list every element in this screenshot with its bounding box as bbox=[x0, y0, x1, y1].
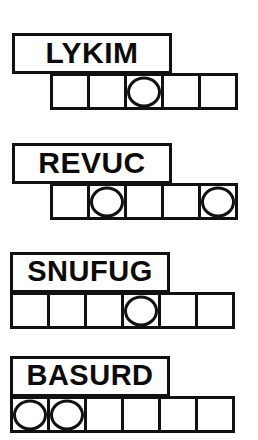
answer-tile[interactable] bbox=[161, 183, 201, 220]
answer-tile-row bbox=[50, 73, 238, 110]
answer-tile[interactable] bbox=[10, 292, 50, 329]
answer-tile-row bbox=[10, 292, 235, 329]
scrambled-word-box: SNUFUG bbox=[10, 252, 170, 293]
answer-tile[interactable] bbox=[84, 396, 124, 433]
answer-tile[interactable] bbox=[47, 292, 87, 329]
answer-tile[interactable] bbox=[50, 183, 90, 220]
answer-tile[interactable] bbox=[50, 73, 90, 110]
scrambled-word-text: LYKIM bbox=[45, 38, 138, 68]
scrambled-word-box: REVUC bbox=[12, 143, 172, 184]
answer-tile[interactable] bbox=[158, 292, 198, 329]
scrambled-word-text: SNUFUG bbox=[27, 257, 152, 286]
worksheet-canvas: LYKIMREVUCSNUFUGBASURD bbox=[0, 0, 258, 440]
answer-tile[interactable] bbox=[195, 396, 235, 433]
answer-tile-circled[interactable] bbox=[47, 396, 87, 433]
answer-tile[interactable] bbox=[198, 73, 238, 110]
answer-tile[interactable] bbox=[124, 183, 164, 220]
scrambled-word-box: LYKIM bbox=[12, 33, 172, 74]
answer-tile[interactable] bbox=[158, 396, 198, 433]
answer-tile-circled[interactable] bbox=[124, 73, 164, 110]
answer-tile-circled[interactable] bbox=[10, 396, 50, 433]
answer-tile[interactable] bbox=[161, 73, 201, 110]
scrambled-word-box: BASURD bbox=[10, 356, 170, 397]
scrambled-word-text: BASURD bbox=[26, 361, 153, 390]
scrambled-word-text: REVUC bbox=[38, 148, 146, 178]
answer-tile-circled[interactable] bbox=[198, 183, 238, 220]
answer-tile[interactable] bbox=[121, 396, 161, 433]
answer-tile-circled[interactable] bbox=[121, 292, 161, 329]
answer-tile-row bbox=[10, 396, 235, 433]
answer-tile-circled[interactable] bbox=[87, 183, 127, 220]
answer-tile-row bbox=[50, 183, 238, 220]
answer-tile[interactable] bbox=[84, 292, 124, 329]
answer-tile[interactable] bbox=[195, 292, 235, 329]
answer-tile[interactable] bbox=[87, 73, 127, 110]
